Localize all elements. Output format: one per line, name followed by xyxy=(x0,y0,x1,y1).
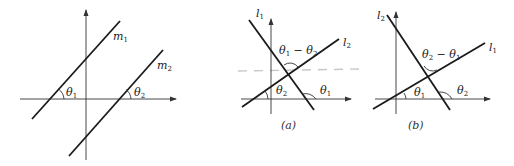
angle-arc-theta1 xyxy=(404,93,406,99)
diagram-canvas: m1 m2 θ1 θ2 l1 l2 θ1 − θ2 θ2 θ1 (a) l xyxy=(0,0,514,166)
label-theta2: θ2 xyxy=(276,84,287,98)
angle-arc-between xyxy=(284,63,298,67)
figure-b: l2 l1 θ2 − θ1 θ1 θ2 (b) xyxy=(373,9,497,132)
label-theta1: θ1 xyxy=(414,86,425,100)
label-l1: l1 xyxy=(256,7,264,21)
label-theta1: θ1 xyxy=(66,86,77,100)
label-theta1-minus-theta2: θ1 − θ2 xyxy=(279,44,317,58)
angle-arc-theta2 xyxy=(265,91,268,99)
label-theta2: θ2 xyxy=(457,84,468,98)
line-m2 xyxy=(69,50,163,156)
dashed-artifact-line xyxy=(238,69,360,71)
label-l2: l2 xyxy=(377,9,385,23)
line-m1 xyxy=(32,21,120,119)
figure-parallel-lines: m1 m2 θ1 θ2 xyxy=(20,10,176,160)
figure-a: l1 l2 θ1 − θ2 θ2 θ1 (a) xyxy=(238,7,360,132)
label-l1: l1 xyxy=(489,41,497,55)
label-theta2: θ2 xyxy=(134,86,145,100)
caption-b: (b) xyxy=(408,119,424,132)
caption-a: (a) xyxy=(281,119,296,132)
label-l2: l2 xyxy=(343,36,351,50)
label-theta1: θ1 xyxy=(320,84,331,98)
label-m1: m1 xyxy=(113,30,128,44)
angle-arc-between xyxy=(424,66,437,71)
label-theta2-minus-theta1: θ2 − θ1 xyxy=(422,48,460,62)
label-m2: m2 xyxy=(157,59,172,73)
angle-arc-theta1 xyxy=(59,89,65,99)
